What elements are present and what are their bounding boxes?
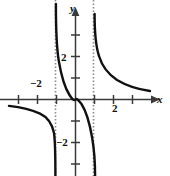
math-graph-figure: −2 2 2 −2 x y xyxy=(0,0,170,176)
y-tick-label-neg2: −2 xyxy=(56,137,68,148)
plot-canvas xyxy=(0,0,170,176)
curve-right-branch xyxy=(95,14,150,91)
x-axis-label: x xyxy=(157,94,163,105)
curve-left-branch xyxy=(9,106,55,176)
x-tick-label-neg2: −2 xyxy=(30,78,42,89)
y-axis-label: y xyxy=(70,3,75,14)
x-tick-label-pos2: 2 xyxy=(112,103,118,114)
y-tick-label-pos2: 2 xyxy=(61,52,67,63)
